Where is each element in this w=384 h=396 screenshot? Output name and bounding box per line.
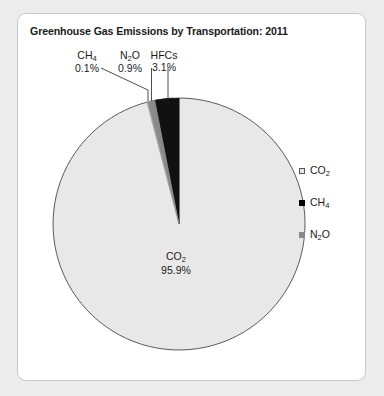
legend-label-ch4: CH4 xyxy=(310,197,329,209)
callout-hfcs-percent: 3.1% xyxy=(146,62,182,74)
legend-item-n2o[interactable]: N2O xyxy=(299,229,355,240)
pie-center-label-co2: CO2 95.9% xyxy=(139,250,213,276)
callout-n2o-percent: 0.9% xyxy=(110,63,150,75)
legend-swatch-co2-icon xyxy=(299,168,305,174)
legend-label-n2o: N2O xyxy=(310,229,330,241)
legend-label-co2: CO2 xyxy=(310,165,330,177)
callout-ch4-percent: 0.1% xyxy=(64,63,110,75)
callout-n2o-gas: N2O xyxy=(110,50,150,63)
legend-item-ch4[interactable]: CH4 xyxy=(299,197,355,208)
chart-page: Greenhouse Gas Emissions by Transportati… xyxy=(0,0,384,396)
legend-swatch-ch4-icon xyxy=(299,200,305,206)
callout-ch4: CH4 0.1% xyxy=(64,50,110,74)
callout-hfcs-gas: HFCs xyxy=(146,50,182,62)
chart-legend: CO2 CH4 N2O xyxy=(299,165,355,261)
legend-swatch-n2o-icon xyxy=(299,232,305,238)
callout-n2o: N2O 0.9% xyxy=(110,50,150,74)
callout-hfcs: HFCs 3.1% xyxy=(146,50,182,73)
callout-ch4-gas: CH4 xyxy=(64,50,110,63)
legend-item-co2[interactable]: CO2 xyxy=(299,165,355,176)
center-label-gas: CO2 xyxy=(139,250,213,264)
center-label-percent: 95.9% xyxy=(139,264,213,276)
